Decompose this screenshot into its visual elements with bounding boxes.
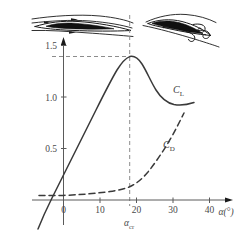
x-tick-label-20: 20 <box>132 205 142 215</box>
alpha-cr-label: αcr <box>124 218 135 230</box>
y-tick-label-1.5: 1.5 <box>45 41 57 51</box>
y-axis-arrowhead-icon <box>61 37 66 45</box>
x-tick-label-30: 30 <box>168 205 178 215</box>
x-tick-label-40: 40 <box>205 205 215 215</box>
y-tick-label-1.0: 1.0 <box>45 93 57 103</box>
x-tick-label-0: 0 <box>61 205 66 215</box>
cl-curve <box>38 56 194 229</box>
x-axis-label: α(°) <box>218 207 233 218</box>
x-tick-label-10: 10 <box>95 205 105 215</box>
aerodynamic-coefficients-figure: 1.5 1.0 0.5 0 10 20 30 40 α(°) αcr CL CD <box>0 0 251 233</box>
airfoil-separated-flow-diagram <box>143 14 219 47</box>
airfoil-core-right <box>152 21 203 34</box>
cl-curve-label: CL <box>173 84 184 98</box>
cd-curve <box>39 113 184 195</box>
cd-subscript: D <box>170 145 175 153</box>
cl-subscript: L <box>180 90 184 98</box>
y-tick-label-0.5: 0.5 <box>45 144 57 154</box>
cd-curve-label: CD <box>163 139 175 153</box>
alpha-cr-subscript: cr <box>129 223 135 230</box>
airfoil-attached-flow-diagram <box>32 15 133 36</box>
x-axis-arrowhead-icon <box>225 198 233 203</box>
figure-root: 1.5 1.0 0.5 0 10 20 30 40 α(°) αcr CL CD <box>0 0 251 233</box>
